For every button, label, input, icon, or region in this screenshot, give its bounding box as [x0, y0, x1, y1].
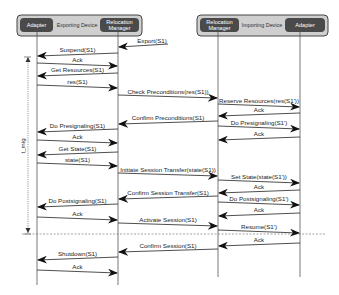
- message-label: Resume(S1'): [241, 223, 277, 230]
- message-label: Confirm Session Transfer(S1): [127, 189, 209, 196]
- importing-device-label: Importing Device: [242, 22, 282, 28]
- message-arrow: Ack: [37, 133, 117, 144]
- message-line: [119, 196, 218, 199]
- message-arrow: Ack: [37, 56, 117, 67]
- sequence-diagram: Adapter Exporting Device Relocation Mana…: [0, 0, 339, 295]
- message-arrow: Suspend(S1): [38, 46, 118, 57]
- message-line: [37, 163, 117, 166]
- migration-time-bracket: t_mig: [19, 57, 31, 234]
- message-arrow: Ack: [37, 263, 117, 274]
- message-label: Do Postsignaling(S1): [48, 197, 106, 204]
- message-label: Confirm Preconditions(S1): [132, 114, 205, 121]
- message-arrow: res(S1): [37, 78, 117, 89]
- message-label: Ack: [254, 183, 265, 190]
- message-line: [119, 44, 168, 47]
- message-label: Export(S1): [137, 37, 167, 44]
- message-arrow: Ack: [219, 130, 300, 141]
- message-line: [37, 140, 117, 143]
- message-line: [37, 85, 117, 88]
- message-label: Confirm Session(S1): [139, 242, 196, 249]
- message-arrow: Get Resources(S1): [38, 66, 118, 77]
- message-label: Do Presignaling(S1): [50, 122, 105, 129]
- message-line: [219, 213, 300, 216]
- message-line: [119, 121, 218, 124]
- message-arrow: Do Postsignaling(S1): [38, 197, 118, 208]
- message-arrow: Resume(S1'): [218, 223, 299, 234]
- message-label: Get State(S1): [59, 145, 97, 152]
- message-arrow: Shutdown(S1): [38, 250, 118, 261]
- message-label: Ack: [254, 206, 265, 213]
- message-line: [219, 190, 300, 193]
- importing-adapter-label: Adapter: [295, 22, 315, 28]
- message-label: Do Postsignaling(S1'): [229, 195, 288, 202]
- message-line: [37, 217, 117, 220]
- message-label: Get Resources(S1): [51, 66, 104, 73]
- message-label: state(S1): [65, 156, 90, 163]
- message-line: [37, 270, 117, 273]
- message-label: Activate Session(S1): [139, 216, 196, 223]
- message-line: [219, 137, 300, 140]
- message-line: [218, 230, 299, 233]
- message-line: [118, 95, 217, 98]
- message-arrow: Ack: [219, 183, 300, 194]
- message-arrow: Ack: [37, 210, 117, 221]
- message-arrow: Ack: [219, 106, 300, 117]
- message-label: Ack: [72, 133, 83, 140]
- message-list: Export(S1)Suspend(S1)AckGet Resources(S1…: [37, 37, 300, 274]
- exporting-device-label: Exporting Device: [57, 22, 98, 28]
- migration-time-label: t_mig: [19, 138, 26, 154]
- message-arrow: Do Presignaling(S1'): [218, 119, 299, 130]
- importing-device-group: Relocation Manager Importing Device Adap…: [197, 15, 328, 36]
- exporting-adapter-label: Adapter: [27, 22, 47, 28]
- message-arrow: Do Postsignaling(S1'): [218, 195, 299, 206]
- message-label: Ack: [254, 106, 265, 113]
- message-line: [118, 173, 217, 176]
- message-arrow: Set State(state(S1')): [218, 173, 299, 184]
- message-label: Ack: [254, 236, 265, 243]
- message-label: res(S1): [67, 78, 87, 85]
- message-line: [219, 243, 300, 246]
- message-label: Set State(state(S1')): [231, 173, 287, 180]
- message-arrow: Check Preconditions(res(S1)): [118, 88, 217, 99]
- message-label: Ack: [72, 263, 83, 270]
- message-line: [119, 249, 218, 252]
- message-label: Do Presignaling(S1'): [231, 119, 288, 126]
- message-label: Ack: [72, 56, 83, 63]
- message-arrow: Get State(S1): [38, 145, 118, 156]
- message-line: [38, 204, 118, 207]
- message-arrow: Initiate Session Transfer(state(S1)): [118, 166, 217, 177]
- message-arrow: Ack: [219, 206, 300, 217]
- message-label: Initiate Session Transfer(state(S1)): [120, 166, 216, 173]
- message-line: [219, 113, 300, 116]
- message-label: Suspend(S1): [59, 46, 95, 53]
- message-label: Reserve Resources(res(S1')): [219, 97, 299, 104]
- message-arrow: Confirm Session(S1): [119, 242, 218, 253]
- message-arrow: state(S1): [37, 156, 117, 167]
- exporting-device-group: Adapter Exporting Device Relocation Mana…: [17, 15, 142, 36]
- message-label: Ack: [254, 130, 265, 137]
- message-line: [38, 257, 118, 260]
- message-arrow: Confirm Preconditions(S1): [119, 114, 218, 125]
- message-arrow: Ack: [219, 236, 300, 247]
- message-arrow: Confirm Session Transfer(S1): [119, 189, 218, 200]
- message-line: [118, 223, 217, 226]
- importing-rm-label-2: Manager: [208, 25, 230, 31]
- message-label: Ack: [72, 210, 83, 217]
- message-label: Check Preconditions(res(S1)): [127, 88, 208, 95]
- exporting-rm-label-2: Manager: [108, 25, 130, 31]
- message-label: Shutdown(S1): [58, 250, 97, 257]
- message-arrow: Activate Session(S1): [118, 216, 217, 227]
- message-line: [38, 73, 118, 76]
- message-arrow: Do Presignaling(S1): [38, 122, 118, 133]
- message-arrow: Export(S1): [119, 37, 168, 48]
